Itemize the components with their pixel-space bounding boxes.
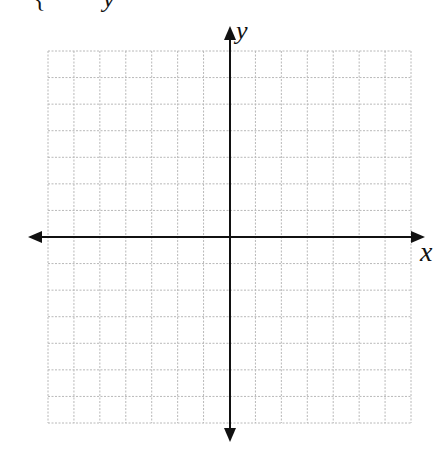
grid-svg (0, 0, 448, 464)
y-axis-label: y (236, 16, 248, 46)
x-axis-label: x (420, 236, 432, 268)
x-axis (28, 231, 425, 243)
y-axis-down-arrow-icon (224, 428, 236, 442)
y-axis (224, 26, 236, 442)
coordinate-plane: { y y x (0, 0, 448, 464)
y-axis-up-arrow-icon (224, 26, 236, 40)
x-axis-left-arrow-icon (28, 231, 42, 243)
